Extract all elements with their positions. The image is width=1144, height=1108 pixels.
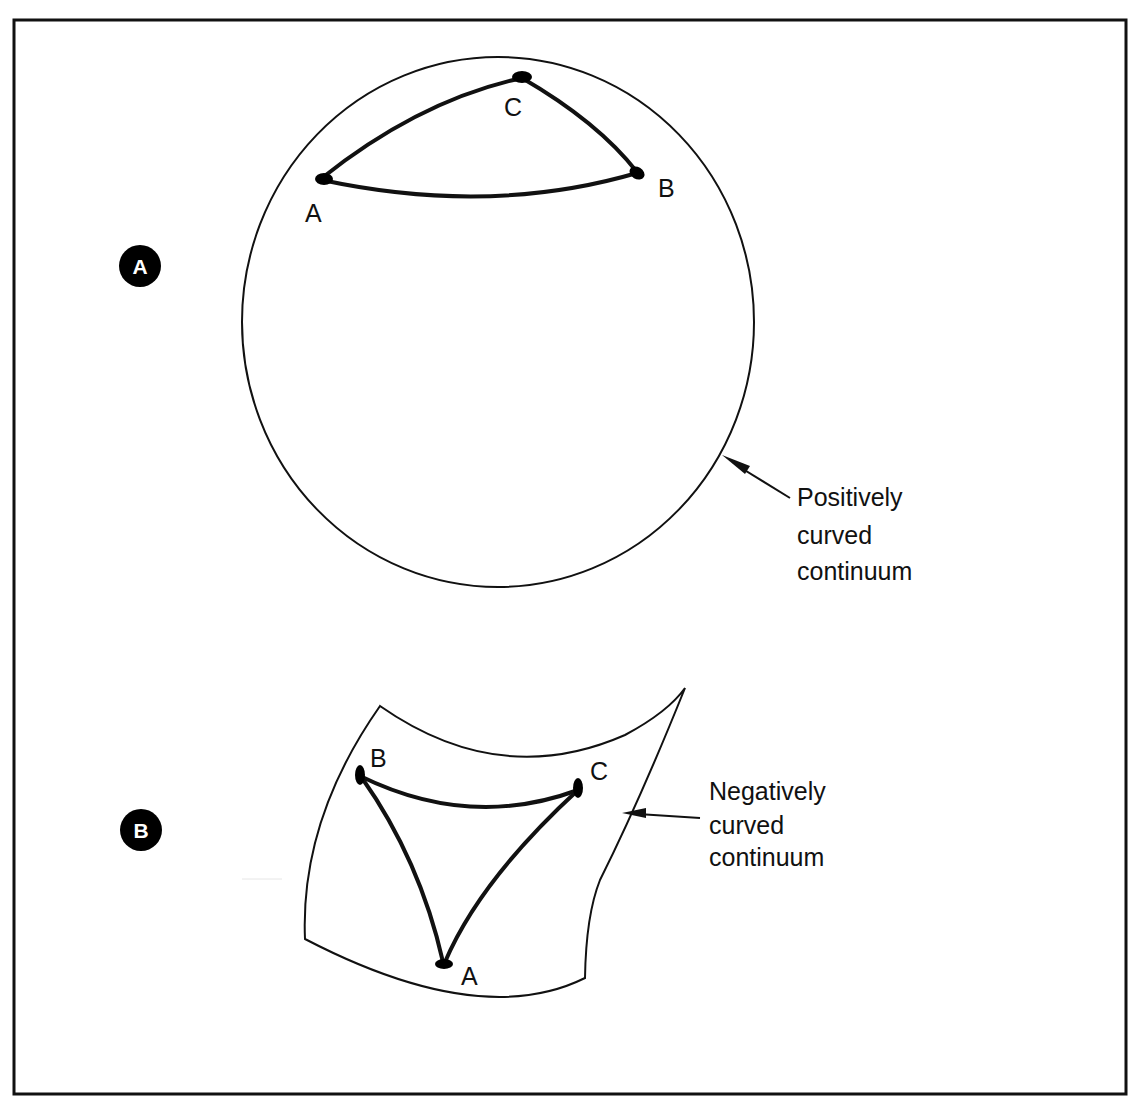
vertex-c-dot bbox=[573, 778, 583, 798]
sphere-outline bbox=[242, 57, 754, 587]
panel-b: B B C A Negatively curved continuum bbox=[120, 688, 833, 997]
vertex-a-label: A bbox=[461, 962, 478, 990]
edge-b-a bbox=[362, 778, 443, 962]
edge-c-a bbox=[445, 790, 578, 962]
vertex-a-dot bbox=[315, 173, 333, 185]
vertex-a-dot bbox=[435, 959, 453, 969]
vertex-b-label: B bbox=[370, 744, 387, 772]
curvature-diagram: A A C B Positively curved continuum B bbox=[0, 0, 1144, 1108]
saddle-outline bbox=[305, 688, 685, 997]
edge-a-b bbox=[322, 173, 637, 196]
vertex-c-dot bbox=[512, 71, 532, 83]
hyperbolic-triangle bbox=[360, 776, 578, 962]
spherical-triangle bbox=[322, 78, 637, 196]
vertex-a-label: A bbox=[305, 199, 322, 227]
edge-b-c bbox=[360, 776, 578, 807]
vertex-b-dot bbox=[355, 765, 365, 785]
badge-label: B bbox=[133, 819, 148, 842]
vertex-c-label: C bbox=[590, 757, 608, 785]
vertex-b-label: B bbox=[658, 174, 675, 202]
arrow-head-icon bbox=[722, 455, 750, 474]
badge-label: A bbox=[132, 255, 147, 278]
panel-b-badge: B bbox=[120, 809, 162, 851]
panel-a: A A C B Positively curved continuum bbox=[119, 57, 912, 587]
panel-a-badge: A bbox=[119, 245, 161, 287]
leader-arrow-positive bbox=[722, 455, 790, 498]
edge-a-c bbox=[322, 78, 522, 178]
caption-positive: Positively curved continuum bbox=[797, 483, 912, 585]
figure-frame bbox=[14, 20, 1126, 1094]
caption-negative: Negatively curved continuum bbox=[709, 777, 833, 871]
edge-c-b bbox=[522, 78, 637, 172]
vertex-c-label: C bbox=[504, 93, 522, 121]
